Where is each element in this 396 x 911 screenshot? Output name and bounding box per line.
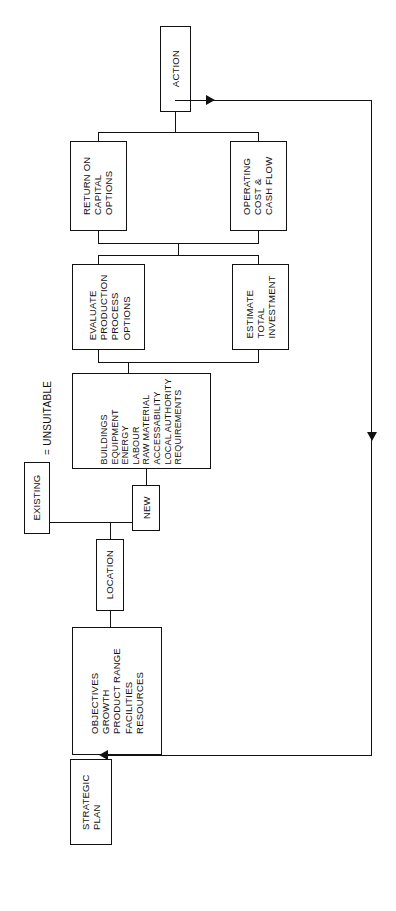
node-existing-label: EXISTING bbox=[31, 475, 42, 521]
arrowhead-feedback-down bbox=[367, 432, 377, 441]
connector-junction-location bbox=[110, 522, 111, 539]
connector-row2-factors-spine bbox=[128, 362, 129, 373]
node-location-label: LOCATION bbox=[104, 550, 115, 599]
node-existing[interactable]: EXISTING bbox=[24, 462, 50, 534]
node-operating-cost-label: OPERATINGCOST &CASH FLOW bbox=[242, 157, 276, 215]
connector-row2-right-riser bbox=[258, 350, 259, 362]
node-new-label: NEW bbox=[140, 497, 151, 520]
node-objectives-label: OBJECTIVESGROWTHPRODUCT RANGEFACILITIESR… bbox=[89, 648, 145, 734]
connector-row1-left-riser bbox=[98, 231, 99, 243]
node-estimate-investment-label: ESTIMATETOTALINVESTMENT bbox=[244, 275, 278, 338]
connector-feedback-vertical bbox=[371, 100, 372, 755]
node-action-label: ACTION bbox=[170, 50, 181, 87]
connector-action-stem bbox=[175, 112, 176, 132]
connector-row1-left-drop bbox=[98, 132, 99, 141]
connector-row1-row2-spine bbox=[178, 243, 179, 255]
node-site-factors[interactable]: BUILDINGSEQUIPMENTENERGYLABOURRAW MATERI… bbox=[72, 373, 211, 469]
connector-row2-left-riser bbox=[98, 350, 99, 362]
connector-row2-right-drop bbox=[258, 255, 259, 264]
flowchart-canvas: ACTION RETURN ONCAPITALOPTIONS OPERATING… bbox=[0, 0, 396, 911]
node-location[interactable]: LOCATION bbox=[96, 539, 124, 611]
node-operating-cost[interactable]: OPERATINGCOST &CASH FLOW bbox=[230, 141, 287, 231]
connector-row1-right-riser bbox=[258, 231, 259, 243]
connector-existing-new bbox=[50, 522, 132, 523]
connector-factors-new bbox=[146, 469, 147, 485]
arrowhead-to-action bbox=[206, 95, 215, 105]
node-evaluate-production-label: EVALUATEPRODUCTIONPROCESSOPTIONS bbox=[86, 274, 131, 340]
connector-row2-bus bbox=[98, 255, 259, 256]
node-strategic-plan-label: STRATEGICPLAN bbox=[80, 774, 102, 829]
node-estimate-investment[interactable]: ESTIMATETOTALINVESTMENT bbox=[232, 264, 289, 350]
connector-location-objectives bbox=[110, 611, 111, 627]
node-return-on-capital[interactable]: RETURN ONCAPITALOPTIONS bbox=[70, 141, 127, 231]
connector-row1-right-drop bbox=[258, 132, 259, 141]
node-strategic-plan[interactable]: STRATEGICPLAN bbox=[70, 759, 112, 845]
node-site-factors-label: BUILDINGSEQUIPMENTENERGYLABOURRAW MATERI… bbox=[99, 378, 184, 464]
legend-unsuitable-text: = UNSUITABLE bbox=[42, 381, 53, 455]
connector-feedback-into-objectives bbox=[107, 755, 372, 756]
connector-row1-bus bbox=[98, 132, 259, 133]
node-return-on-capital-label: RETURN ONCAPITALOPTIONS bbox=[82, 157, 116, 215]
connector-feedback-top bbox=[175, 100, 371, 101]
connector-row2-merge bbox=[98, 362, 259, 363]
node-evaluate-production[interactable]: EVALUATEPRODUCTIONPROCESSOPTIONS bbox=[72, 264, 145, 350]
node-new[interactable]: NEW bbox=[132, 485, 160, 531]
node-objectives[interactable]: OBJECTIVESGROWTHPRODUCT RANGEFACILITIESR… bbox=[72, 627, 162, 755]
connector-row2-left-drop bbox=[98, 255, 99, 264]
